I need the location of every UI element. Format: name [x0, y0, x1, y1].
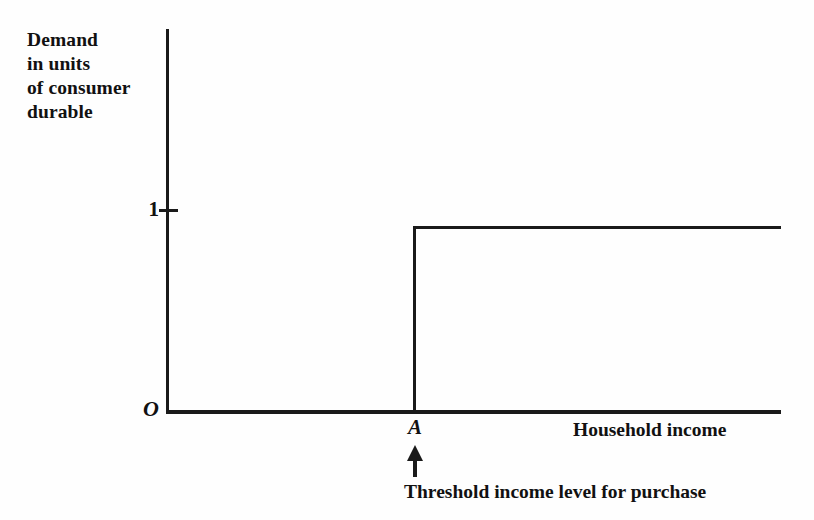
y-axis-label-line-2: in units	[27, 52, 163, 76]
step-riser-segment	[413, 226, 416, 412]
y-axis-label-line-1: Demand	[27, 28, 163, 52]
origin-label: O	[139, 396, 159, 422]
y-axis-line	[166, 29, 169, 414]
x-axis-label: Household income	[573, 417, 726, 443]
x-axis-tick-label-a: A	[396, 414, 434, 440]
y-axis-tick-label: 1	[139, 196, 159, 222]
y-axis-tick-mark	[159, 209, 178, 212]
y-axis-label-line-3: of consumer	[27, 76, 163, 100]
y-axis-label: Demand in units of consumer durable	[27, 28, 163, 124]
step-demand-chart: Demand in units of consumer durable 1 O …	[0, 0, 814, 520]
y-axis-label-line-4: durable	[27, 100, 163, 124]
step-plateau-segment	[413, 226, 781, 229]
threshold-caption: Threshold income level for purchase	[404, 479, 706, 505]
arrow-up-icon	[404, 445, 426, 477]
x-axis-line	[166, 410, 781, 414]
